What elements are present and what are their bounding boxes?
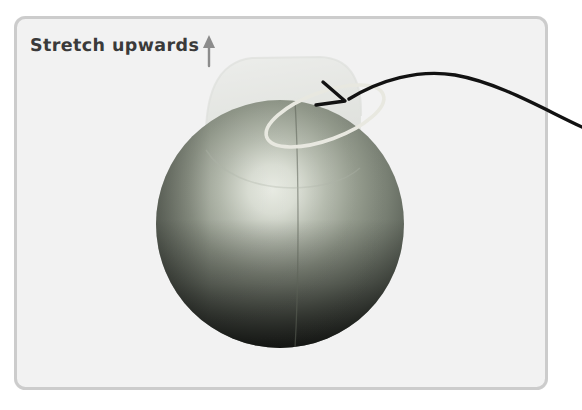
up-arrow-icon <box>203 35 215 66</box>
callout-arrow <box>316 73 582 127</box>
annotation-layer <box>0 0 582 410</box>
stretch-upwards-label: Stretch upwards <box>30 38 199 56</box>
illustration-canvas: Stretch upwards <box>0 0 582 410</box>
